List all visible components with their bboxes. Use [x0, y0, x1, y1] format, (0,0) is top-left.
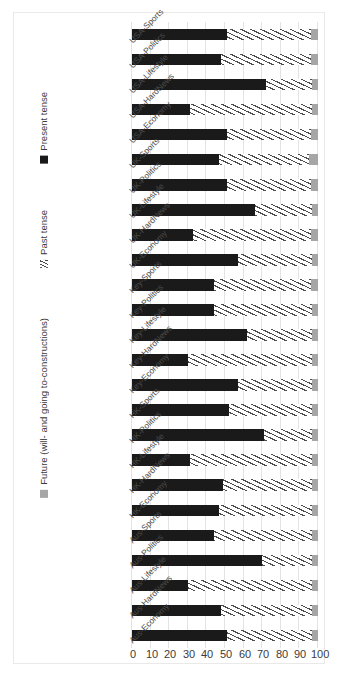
legend-item: Present tense	[38, 92, 49, 164]
value-tick-label: 50	[218, 648, 234, 660]
chart-legend: Present tensePast tenseFuture (will- and…	[25, 92, 53, 592]
value-tick-label: 100	[311, 648, 327, 660]
value-tick-label: 20	[162, 648, 178, 660]
value-tick-label: 80	[274, 648, 290, 660]
legend-label: Past tense	[38, 210, 49, 255]
value-tick-label: 0	[125, 648, 141, 660]
plot-region: 1009080706050403020100 USA-SportsUSA-Pol…	[13, 12, 325, 664]
legend-item: Future (will- and going to-constructions…	[38, 318, 49, 498]
legend-label: Present tense	[38, 92, 49, 151]
legend-swatch-future	[40, 490, 48, 498]
rotated-chart-canvas: 1009080706050403020100 USA-SportsUSA-Pol…	[13, 12, 325, 664]
legend-label: Future (will- and going to-constructions…	[38, 318, 49, 485]
legend-swatch-present	[40, 156, 48, 164]
value-tick-label: 90	[292, 648, 308, 660]
value-tick-label: 60	[237, 648, 253, 660]
value-tick-label: 10	[144, 648, 160, 660]
value-tick-label: 70	[255, 648, 271, 660]
chart-page: 1009080706050403020100 USA-SportsUSA-Pol…	[0, 0, 338, 676]
legend-item: Past tense	[38, 210, 49, 268]
value-tick-label: 40	[199, 648, 215, 660]
value-tick-label: 30	[181, 648, 197, 660]
legend-swatch-past	[40, 260, 48, 268]
